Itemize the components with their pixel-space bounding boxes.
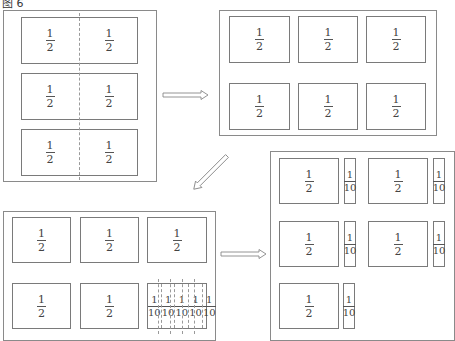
half-split-into-tenths: 110 110 110 110 110	[147, 283, 207, 329]
fraction-one-half: 12	[46, 140, 55, 165]
fraction-one-tenth: 110	[433, 233, 446, 256]
fraction-one-half: 12	[255, 27, 264, 52]
fraction-one-half: 12	[394, 169, 403, 194]
half-piece: 12	[298, 83, 358, 130]
arrow-down-left-icon	[191, 154, 229, 192]
tenth-cell: 110	[148, 284, 162, 328]
tenth-piece: 110	[344, 158, 356, 204]
fraction-one-half: 12	[105, 28, 114, 53]
half-cell: 12	[21, 129, 79, 176]
tenth-guide-line	[194, 279, 195, 334]
half-cell: 12	[21, 73, 79, 120]
half-piece: 12	[80, 217, 139, 263]
fraction-one-tenth: 110	[344, 170, 357, 193]
fraction-one-half: 12	[305, 232, 314, 257]
tenth-piece: 110	[433, 158, 445, 204]
fraction-one-tenth: 110	[189, 295, 202, 318]
tenth-cell: 110	[203, 284, 216, 328]
fraction-one-half: 12	[255, 94, 264, 119]
fraction-one-half: 12	[392, 94, 401, 119]
half-piece: 12	[366, 83, 426, 130]
half-piece: 12	[12, 283, 71, 329]
half-piece: 12	[229, 83, 290, 130]
tenth-cell: 110	[189, 284, 203, 328]
fraction-one-half: 12	[37, 228, 46, 253]
fraction-one-half: 12	[105, 84, 114, 109]
tenth-piece: 110	[344, 221, 356, 267]
fraction-one-half: 12	[105, 140, 114, 165]
arrow-right-icon	[221, 249, 267, 259]
fraction-one-half: 12	[305, 294, 314, 319]
fraction-one-half: 12	[37, 294, 46, 319]
half-piece: 12	[279, 283, 339, 329]
fraction-one-half: 12	[305, 169, 314, 194]
tenth-cell: 110	[162, 284, 176, 328]
tenth-guide-line	[158, 279, 159, 334]
tenth-guide-line	[182, 279, 183, 334]
half-piece: 12	[366, 16, 426, 63]
fraction-one-tenth: 110	[344, 233, 357, 256]
half-cell: 12	[21, 17, 79, 64]
tenth-guide-line	[170, 279, 171, 334]
half-piece: 12	[12, 217, 71, 263]
half-piece: 12	[279, 221, 339, 267]
tenth-piece: 110	[433, 221, 445, 267]
tenth-piece: 110	[343, 283, 355, 329]
fraction-one-half: 12	[324, 94, 333, 119]
half-piece: 12	[147, 217, 207, 263]
fraction-one-tenth: 110	[343, 295, 356, 318]
half-piece: 12	[80, 283, 139, 329]
figure-title: 图 6	[2, 0, 24, 10]
half-cell: 12	[80, 17, 138, 64]
fraction-one-half: 12	[46, 84, 55, 109]
half-piece: 12	[368, 221, 428, 267]
fraction-one-half: 12	[392, 27, 401, 52]
fraction-one-tenth: 110	[433, 170, 446, 193]
fraction-one-tenth: 110	[203, 295, 216, 318]
half-cell: 12	[80, 73, 138, 120]
fraction-one-half: 12	[105, 294, 114, 319]
half-piece: 12	[368, 158, 428, 204]
fraction-one-half: 12	[46, 28, 55, 53]
fraction-one-half: 12	[173, 228, 182, 253]
fraction-one-half: 12	[324, 27, 333, 52]
half-cell: 12	[80, 129, 138, 176]
half-piece: 12	[279, 158, 339, 204]
half-piece: 12	[229, 16, 290, 63]
arrow-right-icon	[163, 90, 209, 100]
fraction-one-tenth: 110	[162, 295, 175, 318]
half-piece: 12	[298, 16, 358, 63]
fraction-one-half: 12	[105, 228, 114, 253]
fraction-one-half: 12	[394, 232, 403, 257]
